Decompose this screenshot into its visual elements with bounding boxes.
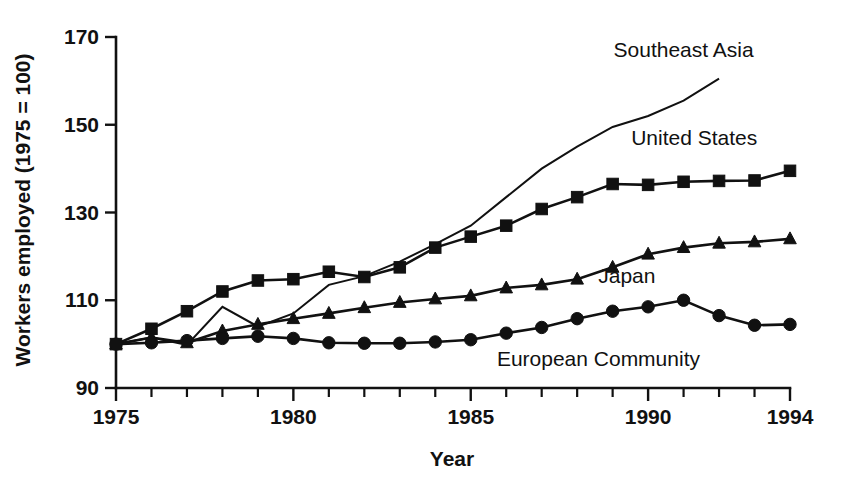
marker-european-community [677,294,689,306]
series-line-united-states [116,171,790,344]
marker-european-community [784,318,796,330]
marker-european-community [110,338,122,350]
series-label-southeast-asia: Southeast Asia [614,38,754,61]
series-line-southeast-asia [116,79,719,345]
y-axis-ticks [105,37,116,388]
marker-united-states [678,176,690,188]
x-tick-label: 1985 [447,405,494,428]
marker-united-states [607,178,619,190]
marker-european-community [358,337,370,349]
marker-european-community [394,337,406,349]
x-axis-tick-labels: 19751980198519901994 [93,405,814,428]
marker-united-states [784,165,796,177]
line-chart-canvas: 19751980198519901994 90110130150170 Sout… [0,0,853,487]
marker-european-community [145,337,157,349]
marker-united-states [252,275,263,287]
marker-european-community [465,334,477,346]
marker-united-states [181,305,193,317]
data-series-group [116,79,790,345]
marker-european-community [713,309,725,321]
y-axis-tick-labels: 90110130150170 [64,25,99,399]
chart-figure: 19751980198519901994 90110130150170 Sout… [0,0,853,487]
marker-european-community [500,327,512,339]
marker-united-states [217,286,229,298]
marker-european-community [429,336,441,348]
marker-united-states [749,175,761,187]
marker-european-community [287,332,299,344]
y-tick-label: 150 [64,113,99,136]
marker-united-states [430,242,442,254]
marker-united-states [359,271,371,283]
marker-united-states [465,231,477,243]
marker-european-community [571,312,583,324]
marker-united-states [642,179,654,191]
series-label-european-community: European Community [497,347,701,370]
marker-united-states [394,262,406,274]
marker-european-community [642,301,654,313]
marker-united-states [713,175,725,187]
x-tick-label: 1994 [767,405,814,428]
marker-united-states [500,220,512,232]
marker-european-community [216,332,228,344]
marker-united-states [571,191,583,203]
series-label-united-states: United States [631,126,757,149]
y-tick-label: 110 [65,288,99,311]
marker-european-community [535,321,547,333]
marker-european-community [252,330,264,342]
marker-european-community [181,334,193,346]
series-label-japan: Japan [598,264,655,287]
marker-united-states [323,266,335,278]
marker-european-community [606,305,618,317]
marker-european-community [748,319,760,331]
marker-united-states [288,273,300,285]
y-axis-title: Workers employed (1975 = 100) [11,53,34,366]
y-tick-label: 90 [76,376,99,399]
x-axis-ticks [116,388,790,401]
x-tick-label: 1975 [93,405,140,428]
x-axis-title: Year [430,447,474,470]
marker-japan [784,232,797,244]
marker-united-states [536,203,548,215]
data-markers-group [110,165,797,350]
y-tick-label: 130 [64,201,99,224]
marker-european-community [323,337,335,349]
x-tick-label: 1980 [270,405,317,428]
y-tick-label: 170 [64,25,99,48]
x-tick-label: 1990 [625,405,672,428]
